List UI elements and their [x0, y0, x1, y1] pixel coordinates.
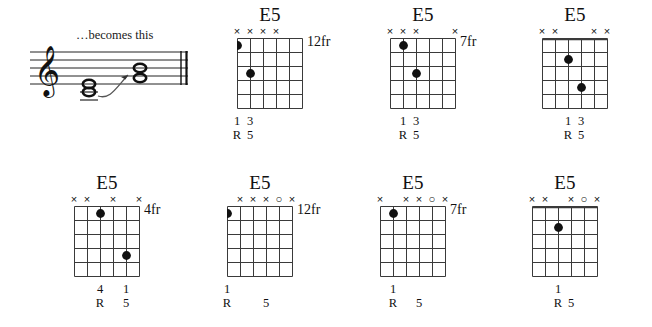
fret-grid [542, 38, 609, 110]
mute-string-icon: × [271, 25, 282, 37]
mute-string-icon: × [245, 25, 256, 37]
mute-string-icon: × [527, 193, 538, 205]
chord-row-bottom: E5××××4fr41R5E5×○×××12fr1R5E5×○×××7fr1R5… [0, 168, 652, 327]
finger-number-row: 41 [74, 282, 194, 296]
interval-label: R [93, 296, 107, 310]
mute-string-icon: × [550, 25, 561, 37]
fret-position-label: 7fr [460, 34, 476, 50]
finger-dot [399, 41, 408, 50]
mute-string-icon: × [258, 25, 269, 37]
mute-string-icon: × [589, 25, 600, 37]
mute-string-icon: × [69, 193, 80, 205]
fret-grid [237, 38, 304, 110]
chord-diagram: E5××××13R5 [530, 0, 652, 160]
fret-grid [74, 206, 141, 278]
mute-string-icon: × [540, 193, 551, 205]
interval-label-row: R5 [542, 128, 652, 142]
chord-name: E5 [368, 172, 458, 194]
mute-string-icon: × [108, 193, 119, 205]
finger-number-row: 13 [237, 114, 357, 128]
chord-name: E5 [215, 172, 305, 194]
chord-diagram: E5×○×××1R5 [520, 168, 652, 327]
mute-string-icon: × [235, 193, 246, 205]
open-string-icon: ○ [579, 193, 590, 205]
fretboard: ××××4fr41R5 [74, 206, 140, 277]
fret-position-label: 7fr [450, 202, 466, 218]
open-string-icon: ○ [274, 193, 285, 205]
mute-string-icon: × [602, 25, 613, 37]
mute-string-icon: × [411, 25, 422, 37]
mute-string-icon: × [82, 193, 93, 205]
string-markers: ×××× [390, 25, 456, 38]
string-markers: ×××× [237, 25, 303, 38]
fret-grid [380, 206, 447, 278]
fretboard: ××××13R5 [542, 38, 608, 109]
interval-label-row: R5 [227, 296, 347, 310]
mute-string-icon: × [401, 193, 412, 205]
mute-string-icon: × [592, 193, 603, 205]
interval-label-row: R5 [390, 128, 510, 142]
fret-grid [390, 38, 457, 110]
interval-label: 5 [243, 128, 257, 142]
finger-dot [122, 251, 131, 260]
fret-position-label: 4fr [144, 202, 160, 218]
mute-string-icon: × [385, 25, 396, 37]
fret-grid [532, 206, 599, 278]
string-markers: ×○××× [227, 193, 293, 206]
mute-string-icon: × [287, 193, 298, 205]
interval-label: R [230, 128, 244, 142]
interval-label-row: R5 [532, 296, 652, 310]
finger-dot [389, 209, 398, 218]
finger-number: 1 [551, 282, 565, 296]
mute-string-icon: × [248, 193, 259, 205]
open-string-icon: ○ [427, 193, 438, 205]
chord-name: E5 [378, 4, 468, 26]
finger-number-row: 13 [542, 114, 652, 128]
interval-label: R [396, 128, 410, 142]
mute-string-icon: × [375, 193, 386, 205]
chord-diagram: E5××××12fr13R5 [225, 0, 375, 160]
finger-number: 3 [409, 114, 423, 128]
chord-name: E5 [520, 172, 610, 194]
chord-diagram: E5×○×××12fr1R5 [215, 168, 365, 327]
finger-number-row: 1 [380, 282, 500, 296]
mute-string-icon: × [414, 193, 425, 205]
fret-position-label: 12fr [297, 202, 320, 218]
finger-number-row: 13 [390, 114, 510, 128]
mute-string-icon: × [566, 193, 577, 205]
finger-number: 3 [243, 114, 257, 128]
mute-string-icon: × [261, 193, 272, 205]
chord-diagram: E5×○×××7fr1R5 [368, 168, 518, 327]
string-markers: ×○××× [532, 193, 598, 206]
interval-label-row: R5 [380, 296, 500, 310]
finger-dot [237, 41, 242, 50]
finger-number-row: 1 [227, 282, 347, 296]
chord-diagram: E5××××4fr41R5 [62, 168, 212, 327]
interval-label-row: R5 [74, 296, 194, 310]
fretboard: ××××7fr13R5 [390, 38, 456, 109]
mute-string-icon: × [134, 193, 145, 205]
interval-label-row: R5 [237, 128, 357, 142]
chord-name: E5 [62, 172, 152, 194]
interval-label: 5 [409, 128, 423, 142]
chord-name: E5 [225, 4, 315, 26]
mute-string-icon: × [232, 25, 243, 37]
finger-number: 4 [93, 282, 107, 296]
fretboard: ×○×××7fr1R5 [380, 206, 446, 277]
finger-number: 3 [574, 114, 588, 128]
interval-label: 5 [259, 296, 273, 310]
interval-label: R [561, 128, 575, 142]
interval-label: 5 [119, 296, 133, 310]
fretboard: ×○×××12fr1R5 [227, 206, 293, 277]
finger-dot [554, 223, 563, 232]
finger-dot [96, 209, 105, 218]
finger-number: 1 [386, 282, 400, 296]
finger-number: 1 [396, 114, 410, 128]
mute-string-icon: × [450, 25, 461, 37]
string-markers: ×○××× [380, 193, 446, 206]
finger-number: 1 [561, 114, 575, 128]
mute-string-icon: × [537, 25, 548, 37]
finger-dot [412, 69, 421, 78]
chord-row-top: E5××××12fr13R5E5××××7fr13R5E5××××13R5 [0, 0, 652, 160]
fretboard: ×○×××1R5 [532, 206, 598, 277]
